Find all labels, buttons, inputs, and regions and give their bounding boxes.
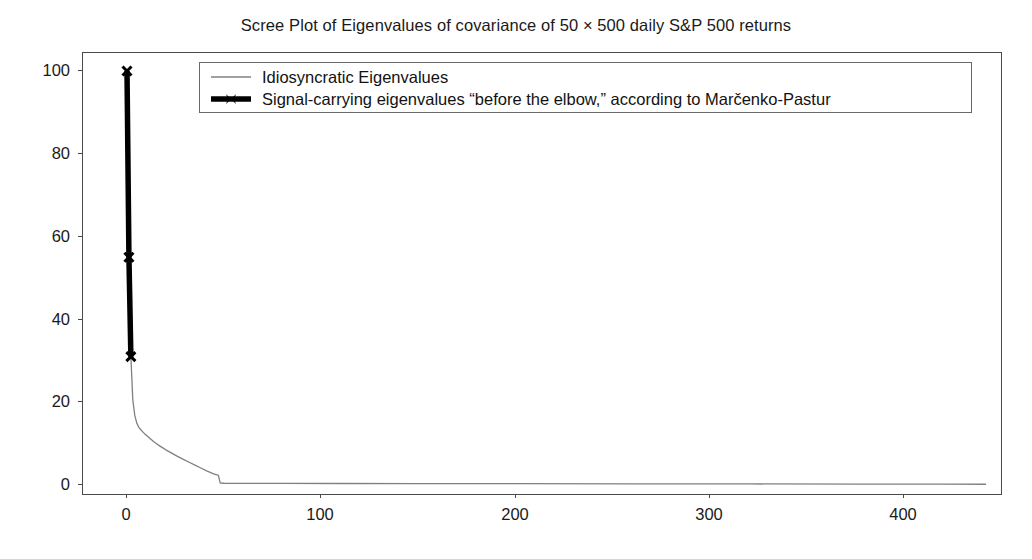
legend: Idiosyncratic Eigenvalues Signal-carryin… <box>199 62 972 113</box>
y-tick-label-20: 20 <box>20 392 70 411</box>
y-tick-label-0: 0 <box>20 475 70 494</box>
legend-thick-line-sample-icon <box>209 90 253 108</box>
legend-row-idiosyncratic: Idiosyncratic Eigenvalues <box>209 66 963 88</box>
legend-label-idiosyncratic: Idiosyncratic Eigenvalues <box>262 69 448 86</box>
page-title: Scree Plot of Eigenvalues of covariance … <box>0 16 1032 35</box>
series-signal-carrying <box>123 67 136 362</box>
x-tick-label-300: 300 <box>695 505 723 524</box>
scree-plot-figure: Scree Plot of Eigenvalues of covariance … <box>0 0 1032 559</box>
y-tick-label-80: 80 <box>20 144 70 163</box>
legend-row-signal-carrying: Signal-carrying eigenvalues “before the … <box>209 88 963 110</box>
y-tick-label-100: 100 <box>20 61 70 80</box>
series-idiosyncratic <box>127 71 986 484</box>
y-tick-label-40: 40 <box>20 310 70 329</box>
x-tick-label-0: 0 <box>121 505 130 524</box>
plot-canvas <box>83 53 1003 496</box>
x-tick-label-200: 200 <box>501 505 529 524</box>
plot-area <box>82 52 1002 495</box>
y-tick-label-60: 60 <box>20 227 70 246</box>
legend-line-sample-icon <box>209 68 253 86</box>
x-tick-label-100: 100 <box>306 505 334 524</box>
x-tick-label-400: 400 <box>889 505 917 524</box>
legend-label-signal-carrying: Signal-carrying eigenvalues “before the … <box>262 91 831 108</box>
